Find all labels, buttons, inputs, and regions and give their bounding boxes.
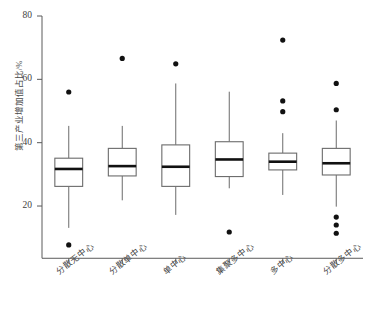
outlier-4-1	[280, 98, 285, 103]
plot-area	[0, 0, 373, 315]
box-group-2	[162, 61, 190, 215]
box-1	[108, 148, 136, 176]
outlier-4-2	[280, 109, 285, 114]
outlier-5-2	[334, 215, 339, 220]
boxes	[55, 37, 350, 247]
outlier-5-0	[334, 81, 339, 86]
outlier-1-0	[120, 56, 125, 61]
box-group-1	[108, 56, 136, 200]
box-5	[322, 148, 350, 175]
box-plot-chart: 第三产业增加值占比/% 80 60 40 20 分散无中心 分散单中心 单中心 …	[0, 0, 373, 315]
outlier-5-4	[334, 231, 339, 236]
outlier-5-3	[334, 222, 339, 227]
box-group-0	[55, 89, 83, 247]
outlier-0-0	[66, 89, 71, 94]
axes	[37, 16, 363, 263]
outlier-0-1	[66, 242, 71, 247]
box-0	[55, 158, 83, 186]
box-group-4	[269, 37, 297, 194]
outlier-5-1	[334, 107, 339, 112]
box-group-3	[215, 92, 243, 235]
outlier-2-0	[173, 61, 178, 66]
outlier-3-0	[227, 229, 232, 234]
box-group-5	[322, 81, 350, 236]
outlier-4-0	[280, 37, 285, 42]
